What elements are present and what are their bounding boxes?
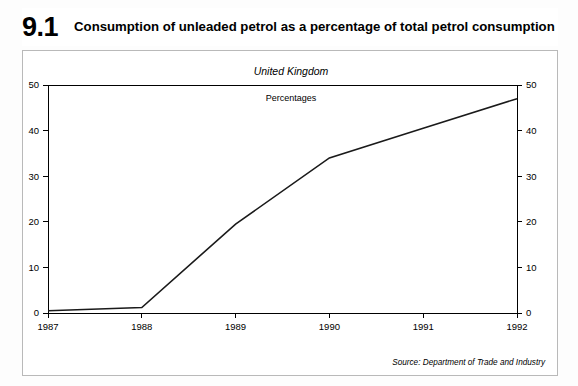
page-title: Consumption of unleaded petrol as a perc… (74, 19, 555, 34)
y-tick-label-left: 40 (28, 125, 39, 136)
source-note: Source: Department of Trade and Industry (392, 358, 545, 367)
x-tick-label: 1987 (37, 321, 58, 332)
x-tick-label: 1989 (225, 321, 246, 332)
y-tick-label-right: 40 (526, 125, 537, 136)
x-tick-label: 1988 (131, 321, 152, 332)
chart-number: 9.1 (22, 14, 58, 41)
line-chart-plot: 01020304050 01020304050 1987198819891990… (23, 51, 559, 377)
y-tick-label-left: 50 (28, 79, 39, 90)
page-root: 9.1 Consumption of unleaded petrol as a … (0, 0, 578, 386)
chart-title-band: 9.1 Consumption of unleaded petrol as a … (22, 8, 558, 46)
y-tick-label-left: 30 (28, 171, 39, 182)
y-tick-label-left: 0 (34, 307, 39, 318)
y-tick-label-right: 30 (526, 171, 537, 182)
y-tick-label-right: 0 (526, 307, 531, 318)
data-series (48, 99, 517, 311)
y-tick-label-right: 10 (526, 262, 537, 273)
chart-container: United Kingdom Percentages 01020304050 0… (22, 50, 558, 376)
x-tick-label: 1990 (319, 321, 340, 332)
x-tick-label: 1992 (506, 321, 527, 332)
y-tick-label-left: 10 (28, 262, 39, 273)
y-axis-left: 01020304050 (28, 79, 517, 318)
y-tick-label-left: 20 (28, 216, 39, 227)
y-axis-right: 01020304050 (517, 79, 537, 318)
y-tick-label-right: 50 (526, 79, 537, 90)
x-tick-label: 1991 (413, 321, 434, 332)
x-axis: 198719881989199019911992 (37, 313, 527, 332)
data-line-unleaded-petrol (48, 99, 517, 311)
y-tick-label-right: 20 (526, 216, 537, 227)
